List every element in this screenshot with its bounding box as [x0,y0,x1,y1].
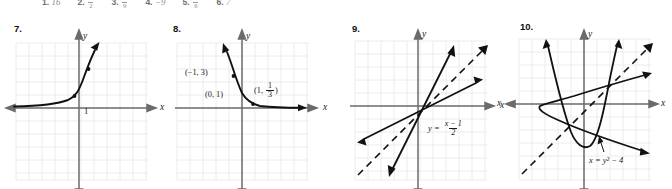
answer-item: 3. 1 9 [111,0,128,9]
answer-fraction: 1 9 [122,0,127,9]
answer-fraction: 1 6 [193,0,198,9]
grid-lines [519,39,651,180]
graph-10-plot [500,14,672,189]
answer-value: 7 [226,0,231,7]
curve-arrowhead-up [222,43,229,53]
graph-8-y-axis-label: y [246,31,250,41]
curve-point [87,67,91,71]
graph-7-plot [0,14,175,189]
answer-item: 2. 1 2 [78,0,95,9]
graph-8-point-label-1-onethird: (1, 13) [254,82,278,100]
graph-9-equation-label: y = x − 12 [428,120,465,138]
graph-panel-10: 10. [500,14,672,189]
graph-8-point-label-neg1-3: (−1, 3) [185,68,208,77]
fraction-denominator: 2 [88,2,93,10]
curve-arrowhead-right [298,104,307,111]
fraction-denominator: 6 [193,2,198,10]
equation-prefix: y = [428,123,442,133]
graph-panel-8: 8. [175,14,350,189]
graph-7-x-axis-label: x [160,102,164,112]
answer-item: 5. 1 6 [183,0,200,9]
exponential-curve [14,50,95,107]
answer-number: 1. [42,0,49,7]
graph-7-tick-label-1: 1 [84,106,88,116]
fraction-denominator: 9 [122,2,127,10]
graph-panel-9: 9. [350,14,515,189]
fraction-denominator: 2 [449,128,457,137]
answer-number: 5. [183,0,190,7]
rightward-parabola [539,75,645,151]
graph-10-equation-label: x = y² − 4 [589,155,623,165]
answer-item: 6. 7 [216,0,230,7]
grid-lines [16,43,148,180]
fraction-denominator: 3 [266,90,274,99]
curve-point [232,74,236,78]
graph-panel-7: 7. [0,14,175,189]
answer-number: 2. [78,0,85,7]
point-label-suffix: ) [275,86,278,95]
graph-8-point-label-0-1: (0, 1) [205,90,223,99]
equation-fraction: x − 12 [443,120,464,138]
graph-10-y-axis-label: y [588,29,592,39]
axes [506,30,658,189]
point-label-fraction: 13 [266,82,274,100]
answer-item: 4. −9 [145,0,165,7]
answer-key-row: 1. 16 2. 1 2 3. 1 9 4. −9 [0,0,672,11]
curve-point [251,102,255,106]
textbook-answer-page: 1. 16 2. 1 2 3. 1 9 4. −9 [0,0,672,189]
rightward-parabola-arrowhead-bottom [640,148,650,156]
answer-number: 3. [111,0,118,7]
graph-10-x-axis-label-left: x [497,98,501,108]
point-label-prefix: (1, [254,86,265,95]
graph-8-x-axis-label: x [323,102,327,112]
grid-lines [177,43,309,180]
answer-number: 6. [216,0,223,7]
graph-9-plot [350,14,515,189]
graph-7-y-axis-label: y [83,31,87,41]
answer-item: 1. 16 [42,0,61,7]
answer-number: 4. [145,0,152,7]
answer-value: −9 [155,0,166,7]
curve-point [73,94,77,98]
graph-10-x-axis-label-right: x [661,98,665,108]
fraction-numerator: 1 [266,82,274,90]
answer-fraction: 1 2 [88,0,93,9]
axes [175,30,317,189]
graph-9-y-axis-label: y [422,29,426,39]
fraction-numerator: x − 1 [443,120,464,128]
answer-value: 16 [52,0,61,7]
